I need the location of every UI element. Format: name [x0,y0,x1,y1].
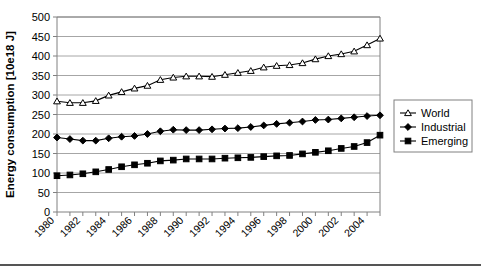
series-marker-industrial [273,120,280,127]
series-marker-industrial [234,125,241,132]
chart-canvas: 0501001502002503003504004505001980198219… [0,0,481,276]
series-marker-emerging [119,164,125,170]
legend-label-emerging: Emerging [421,135,468,147]
series-marker-emerging [170,157,176,163]
series-marker-emerging [261,154,267,160]
series-marker-emerging [54,173,60,179]
series-marker-industrial [54,134,61,141]
y-tick-label: 350 [32,70,50,82]
series-marker-industrial [377,112,384,119]
y-tick-label: 150 [32,148,50,160]
y-tick-label: 450 [32,31,50,43]
series-marker-emerging [145,160,151,166]
series-marker-world [54,98,61,104]
x-tick-label: 1992 [186,214,211,239]
page-bottom-rule [0,264,481,266]
x-tick-label: 1998 [264,214,289,239]
legend-label-industrial: Industrial [421,121,466,133]
x-tick-label: 2002 [316,214,341,239]
series-marker-world [92,98,99,104]
series-marker-emerging [93,169,99,175]
series-marker-emerging [235,155,241,161]
series-marker-emerging [313,150,319,156]
series-marker-emerging [158,158,164,164]
series-marker-emerging [67,172,73,178]
series-marker-industrial [79,137,86,144]
series-marker-industrial [286,119,293,126]
y-axis-title: Energy consumption [10e18 J] [4,31,16,198]
series-marker-industrial [105,135,112,142]
x-tick-label: 1982 [57,214,82,239]
series-marker-emerging [132,162,138,168]
x-tick-label: 1990 [161,214,186,239]
series-marker-industrial [299,118,306,125]
series-marker-industrial [196,127,203,134]
y-tick-label: 250 [32,109,50,121]
x-tick-label: 1994 [212,214,237,239]
y-tick-label: 400 [32,50,50,62]
series-marker-industrial [338,115,345,122]
y-tick-label: 300 [32,89,50,101]
series-marker-world [364,42,371,48]
series-marker-world [144,82,151,88]
series-line-world [57,38,380,102]
energy-consumption-line-chart: 0501001502002503003504004505001980198219… [0,0,481,276]
x-tick-label: 1996 [238,214,263,239]
series-marker-emerging [338,146,344,152]
series-marker-emerging [80,171,86,177]
y-tick-label: 500 [32,11,50,23]
series-marker-industrial [183,127,190,134]
series-marker-industrial [312,117,319,124]
x-tick-label: 1984 [83,214,108,239]
series-marker-industrial [144,131,151,138]
series-marker-industrial [364,113,371,120]
series-marker-emerging [222,155,228,161]
x-tick-label: 1988 [135,214,160,239]
y-tick-label: 50 [38,187,50,199]
series-marker-emerging [377,132,383,138]
series-marker-industrial [92,137,99,144]
series-marker-emerging [196,156,202,162]
series-marker-world [351,48,358,54]
y-tick-label: 100 [32,167,50,179]
legend-label-world: World [421,107,450,119]
series-marker-emerging [300,151,306,157]
series-marker-industrial [260,122,267,129]
x-tick-label: 2004 [341,214,366,239]
legend-marker-emerging [405,138,411,144]
series-marker-emerging [287,153,293,159]
series-marker-emerging [274,153,280,159]
series-marker-industrial [170,126,177,133]
series-marker-emerging [183,156,189,162]
y-tick-label: 200 [32,128,50,140]
x-tick-label: 2000 [290,214,315,239]
series-marker-emerging [326,148,332,154]
series-marker-emerging [364,140,370,146]
series-marker-emerging [106,167,112,173]
series-marker-industrial [209,126,216,133]
series-marker-emerging [351,144,357,150]
series-marker-industrial [247,124,254,131]
x-tick-label: 1986 [109,214,134,239]
series-marker-emerging [209,156,215,162]
series-marker-industrial [222,125,229,132]
x-tick-label: 1980 [31,214,56,239]
series-marker-emerging [248,155,254,161]
series-marker-industrial [325,116,332,123]
series-marker-industrial [67,136,74,143]
